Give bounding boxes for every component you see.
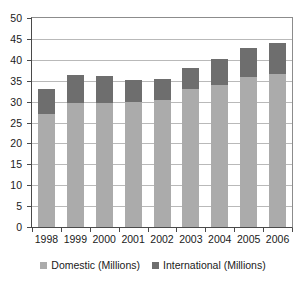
x-tick-mark-0 (32, 228, 33, 232)
bar-segment-international-2004[interactable] (211, 59, 228, 85)
bar-segment-domestic-2003[interactable] (182, 89, 199, 227)
x-tick-label-2002: 2002 (147, 233, 177, 245)
x-tick-mark-1 (61, 228, 62, 232)
y-tick-mark-50 (27, 18, 31, 19)
legend-label: Domestic (Millions) (51, 259, 140, 271)
y-tick-mark-45 (27, 39, 31, 40)
bar-segment-international-2000[interactable] (96, 76, 113, 104)
x-axis: 199819992000200120022003200420052006 (32, 233, 292, 247)
x-tick-mark-6 (205, 228, 206, 232)
bars-layer (32, 18, 292, 227)
y-tick-label-20: 20 (10, 138, 22, 148)
legend-swatch-icon (40, 262, 47, 269)
legend-entry-domestic[interactable]: Domestic (Millions) (40, 259, 140, 271)
y-tick-label-5: 5 (16, 201, 22, 211)
x-tick-mark-5 (176, 228, 177, 232)
x-tick-label-1999: 1999 (60, 233, 90, 245)
y-tick-label-40: 40 (10, 55, 22, 65)
bar-group-1998[interactable] (38, 18, 55, 227)
x-tick-mark-3 (119, 228, 120, 232)
y-tick-mark-0 (27, 227, 31, 228)
x-tick-label-2004: 2004 (205, 233, 235, 245)
bar-group-2000[interactable] (96, 18, 113, 227)
legend-label: International (Millions) (163, 259, 266, 271)
y-tick-mark-25 (27, 123, 31, 124)
y-tick-mark-5 (27, 206, 31, 207)
y-tick-label-25: 25 (10, 118, 22, 128)
y-tick-mark-40 (27, 60, 31, 61)
x-tick-mark-4 (148, 228, 149, 232)
x-tick-label-2001: 2001 (118, 233, 148, 245)
bar-group-2003[interactable] (182, 18, 199, 227)
bar-segment-domestic-2005[interactable] (240, 77, 257, 227)
legend-swatch-icon (152, 262, 159, 269)
y-tick-label-0: 0 (16, 222, 22, 232)
x-tick-mark-7 (234, 228, 235, 232)
bar-group-1999[interactable] (67, 18, 84, 227)
bar-segment-domestic-2006[interactable] (269, 74, 286, 227)
x-tick-label-2000: 2000 (89, 233, 119, 245)
chart-legend: Domestic (Millions)International (Millio… (0, 256, 306, 274)
x-tick-mark-8 (263, 228, 264, 232)
bar-segment-international-1999[interactable] (67, 75, 84, 103)
bar-group-2002[interactable] (154, 18, 171, 227)
bar-segment-international-2005[interactable] (240, 48, 257, 77)
y-tick-mark-20 (27, 143, 31, 144)
y-tick-mark-10 (27, 185, 31, 186)
x-tick-mark-9 (292, 228, 293, 232)
bar-segment-international-2006[interactable] (269, 43, 286, 74)
bar-group-2005[interactable] (240, 18, 257, 227)
bar-segment-domestic-2002[interactable] (154, 100, 171, 227)
y-tick-label-15: 15 (10, 159, 22, 169)
stacked-bar-chart: 05101520253035404550 1998199920002001200… (0, 0, 306, 281)
bar-segment-international-1998[interactable] (38, 89, 55, 114)
bar-segment-domestic-1998[interactable] (38, 114, 55, 227)
y-tick-mark-35 (27, 81, 31, 82)
bar-segment-domestic-1999[interactable] (67, 103, 84, 227)
bar-group-2004[interactable] (211, 18, 228, 227)
bar-segment-domestic-2001[interactable] (125, 102, 142, 227)
y-axis: 05101520253035404550 (0, 17, 27, 228)
bar-segment-international-2001[interactable] (125, 80, 142, 103)
y-tick-label-35: 35 (10, 76, 22, 86)
bar-segment-international-2002[interactable] (154, 79, 171, 99)
x-tick-label-2003: 2003 (176, 233, 206, 245)
y-tick-mark-15 (27, 164, 31, 165)
bar-segment-domestic-2004[interactable] (211, 85, 228, 227)
x-tick-label-2006: 2006 (263, 233, 293, 245)
y-tick-mark-30 (27, 102, 31, 103)
y-tick-label-45: 45 (10, 34, 22, 44)
y-tick-label-30: 30 (10, 97, 22, 107)
y-tick-label-50: 50 (10, 13, 22, 23)
bar-segment-domestic-2000[interactable] (96, 103, 113, 227)
bar-group-2006[interactable] (269, 18, 286, 227)
x-tick-mark-2 (90, 228, 91, 232)
bar-group-2001[interactable] (125, 18, 142, 227)
bar-segment-international-2003[interactable] (182, 68, 199, 88)
x-tick-label-1998: 1998 (31, 233, 61, 245)
x-tick-label-2005: 2005 (234, 233, 264, 245)
legend-entry-international[interactable]: International (Millions) (152, 259, 266, 271)
x-axis-ticks (32, 228, 292, 232)
y-tick-label-10: 10 (10, 180, 22, 190)
